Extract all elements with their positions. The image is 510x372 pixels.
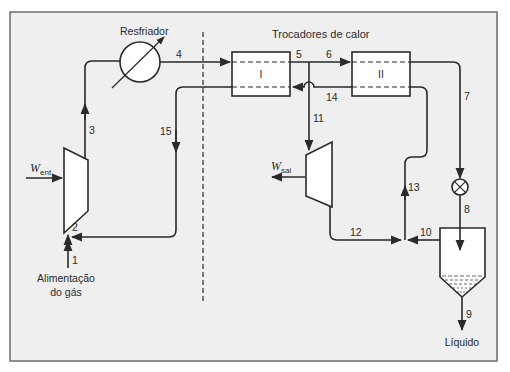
stream-14-label: 14 [326, 91, 338, 103]
stream-13-label: 13 [408, 181, 420, 193]
stream-4-label: 4 [176, 48, 182, 60]
stream-1-label: 1 [72, 254, 78, 266]
stream-7-label: 7 [464, 90, 470, 102]
feed-label-line2: do gás [50, 286, 82, 298]
stream-2-label: 2 [72, 221, 78, 233]
stream-9-label: 9 [466, 308, 472, 320]
stream-10-label: 10 [420, 226, 432, 238]
feed-label-line1: Alimentação [37, 272, 95, 284]
hx2-label: II [378, 68, 384, 80]
stream-8-label: 8 [464, 203, 470, 215]
stream-11-label: 11 [313, 112, 324, 124]
process-flow-diagram: Went 1 2 Alimentação do gás 3 Resfriador… [0, 0, 510, 372]
stream-6-label: 6 [326, 48, 332, 60]
stream-5-label: 5 [296, 48, 302, 60]
stream-15-label: 15 [160, 125, 172, 137]
cooler-label: Resfriador [120, 25, 169, 37]
stream-3-label: 3 [89, 124, 95, 136]
liquid-label: Líquido [445, 336, 480, 348]
stream-12-label: 12 [350, 226, 362, 238]
hx1-label: I [260, 68, 263, 80]
heat-exchangers-title: Trocadores de calor [272, 28, 370, 40]
cooler-icon [120, 42, 160, 82]
